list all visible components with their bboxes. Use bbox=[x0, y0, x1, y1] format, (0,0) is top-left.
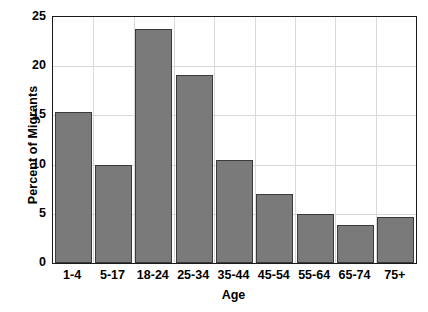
x-tick-label: 1-4 bbox=[63, 268, 81, 282]
plot-area bbox=[52, 16, 417, 264]
bar bbox=[95, 165, 132, 263]
bar bbox=[297, 214, 334, 263]
y-tick-label: 15 bbox=[18, 108, 46, 121]
bar-chart-figure: Percent of Migrants 0510152025 1-45-1718… bbox=[0, 0, 428, 312]
x-tick-label: 25-34 bbox=[177, 268, 209, 282]
y-tick-label: 0 bbox=[18, 256, 46, 269]
x-axis-title: Age bbox=[52, 288, 415, 302]
y-axis-tick-labels: 0510152025 bbox=[18, 0, 46, 312]
y-tick-label: 5 bbox=[18, 207, 46, 220]
bar-series bbox=[53, 17, 416, 263]
y-tick-label: 20 bbox=[18, 59, 46, 72]
bar bbox=[337, 225, 374, 263]
x-tick-label: 65-74 bbox=[339, 268, 371, 282]
x-tick-label: 55-64 bbox=[298, 268, 330, 282]
x-tick-label: 45-54 bbox=[258, 268, 290, 282]
bar bbox=[216, 160, 253, 263]
bar bbox=[55, 112, 92, 263]
bar bbox=[135, 29, 172, 263]
x-tick-label: 75+ bbox=[384, 268, 405, 282]
y-tick-label: 25 bbox=[18, 10, 46, 23]
x-tick-label: 5-17 bbox=[100, 268, 125, 282]
plot-inner bbox=[53, 17, 416, 263]
bar bbox=[377, 217, 414, 263]
bar bbox=[176, 75, 213, 263]
x-axis-tick-labels: 1-45-1718-2425-3435-4445-5455-6465-7475+ bbox=[52, 268, 415, 284]
y-tick-label: 10 bbox=[18, 157, 46, 170]
bar bbox=[256, 194, 293, 263]
x-tick-label: 18-24 bbox=[137, 268, 169, 282]
x-tick-label: 35-44 bbox=[218, 268, 250, 282]
